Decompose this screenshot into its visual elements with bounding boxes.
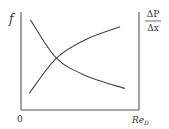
- x-axis-label-main: Re: [131, 115, 144, 125]
- y-axis-right-label: ΔP Δx: [145, 9, 161, 33]
- diagram-canvas: f ΔP Δx 0 ReD: [0, 0, 169, 129]
- x-axis-label-subscript: D: [143, 119, 149, 126]
- curves-group: [29, 20, 125, 94]
- x-origin-label: 0: [17, 114, 23, 124]
- x-axis-label: ReD: [131, 115, 149, 126]
- y-axis-right-denominator: Δx: [147, 23, 159, 33]
- axes-group: [21, 12, 139, 110]
- y-axis-right-numerator: ΔP: [147, 9, 160, 19]
- y-axis-left-label: f: [8, 12, 16, 26]
